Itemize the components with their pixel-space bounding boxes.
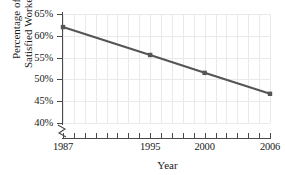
- gridline-vertical: [259, 14, 260, 123]
- x-axis-tick: [85, 133, 86, 139]
- y-axis-tick: [57, 79, 63, 80]
- gridline-vertical: [183, 14, 184, 123]
- y-axis-tick: [57, 14, 63, 15]
- gridline-vertical: [117, 14, 118, 123]
- gridline-vertical: [216, 14, 217, 123]
- x-axis-tick: [128, 133, 129, 139]
- y-axis-tick: [57, 101, 63, 102]
- gridline-vertical: [139, 14, 140, 123]
- x-axis-tick: [161, 133, 162, 139]
- gridline-vertical: [226, 14, 227, 123]
- gridline-vertical: [107, 14, 108, 123]
- x-axis-tick: [205, 133, 206, 139]
- gridline-vertical: [237, 14, 238, 123]
- y-axis-tick-label: 40%: [11, 118, 53, 129]
- x-axis-tick: [150, 133, 151, 139]
- x-axis-tick-label: 2000: [195, 142, 215, 153]
- x-axis-tick: [270, 133, 271, 139]
- x-axis-tick: [172, 133, 173, 139]
- gridline-vertical: [96, 14, 97, 123]
- x-axis-tick: [96, 133, 97, 139]
- gridline-horizontal: [63, 101, 270, 102]
- gridline-vertical: [194, 14, 195, 123]
- gridline-vertical: [161, 14, 162, 123]
- y-axis-tick-label: 45%: [11, 96, 53, 107]
- x-axis-tick-label: 2006: [260, 142, 280, 153]
- x-axis-tick: [139, 133, 140, 139]
- gridline-horizontal: [63, 58, 270, 59]
- y-axis-tick: [57, 36, 63, 37]
- x-axis-tick: [194, 133, 195, 139]
- y-axis-title-line2: Satisfied Workers: [22, 0, 34, 68]
- x-axis-tick: [237, 133, 238, 139]
- x-axis-tick: [226, 133, 227, 139]
- x-axis-tick: [74, 133, 75, 139]
- x-axis-tick: [183, 133, 184, 139]
- gridline-vertical: [270, 14, 271, 123]
- x-axis-tick-label: 1995: [140, 142, 160, 153]
- line-chart: 65%60%55%50%45%40% 1987199520002006 Year…: [0, 0, 285, 175]
- x-axis-title: Year: [0, 159, 285, 171]
- gridline-vertical: [63, 14, 64, 123]
- gridline-horizontal: [63, 36, 270, 37]
- gridline-horizontal: [63, 123, 270, 124]
- x-axis-tick: [259, 133, 260, 139]
- plot-area: [63, 14, 270, 123]
- gridline-horizontal: [63, 14, 270, 15]
- y-axis-line: [62, 12, 63, 125]
- gridline-vertical: [74, 14, 75, 123]
- gridline-vertical: [205, 14, 206, 123]
- gridline-vertical: [128, 14, 129, 123]
- gridline-horizontal: [63, 79, 270, 80]
- x-axis-line: [62, 138, 271, 139]
- y-axis-tick: [57, 58, 63, 59]
- gridline-vertical: [172, 14, 173, 123]
- gridline-vertical: [248, 14, 249, 123]
- gridline-vertical: [150, 14, 151, 123]
- y-axis-title-line1: Percentage of: [10, 0, 22, 59]
- plot-background: [63, 14, 270, 123]
- x-axis-tick: [248, 133, 249, 139]
- y-axis-title: Percentage of Satisfied Workers: [7, 0, 37, 84]
- axis-break-icon: [57, 124, 69, 138]
- x-axis-tick: [107, 133, 108, 139]
- gridline-vertical: [85, 14, 86, 123]
- x-axis-tick: [117, 133, 118, 139]
- x-axis-tick: [216, 133, 217, 139]
- x-axis-tick-label: 1987: [53, 142, 73, 153]
